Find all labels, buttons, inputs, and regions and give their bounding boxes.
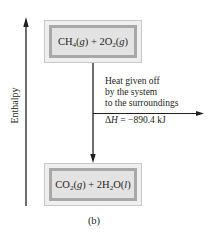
figure-caption: (b) (84, 215, 104, 226)
heat-line-1: Heat given off (105, 76, 178, 87)
heat-line-2: by the system (105, 87, 178, 98)
delta-h-symbol: ΔH (105, 115, 118, 125)
heat-arrow-head-icon (196, 111, 204, 116)
reactants-box-frame: CH4(g) + 2O2(g) (49, 25, 137, 58)
reactants-box: CH4(g) + 2O2(g) (44, 20, 142, 63)
reaction-arrow-head-icon (90, 154, 95, 163)
delta-h-value: ΔH = −890.4 kJ (105, 115, 166, 126)
products-formula: CO2(g) + 2H2O(l) (55, 179, 130, 190)
reactants-formula: CH4(g) + 2O2(g) (58, 36, 128, 47)
products-box: CO2(g) + 2H2O(l) (44, 163, 142, 206)
heat-annotation: Heat given off by the system to the surr… (105, 76, 178, 109)
enthalpy-axis-arrowhead-icon (23, 17, 28, 27)
products-box-frame: CO2(g) + 2H2O(l) (49, 168, 137, 201)
heat-line-3: to the surroundings (105, 98, 178, 109)
enthalpy-axis-label: Enthalpy (9, 86, 20, 126)
delta-h-equals: = −890.4 kJ (118, 115, 166, 125)
